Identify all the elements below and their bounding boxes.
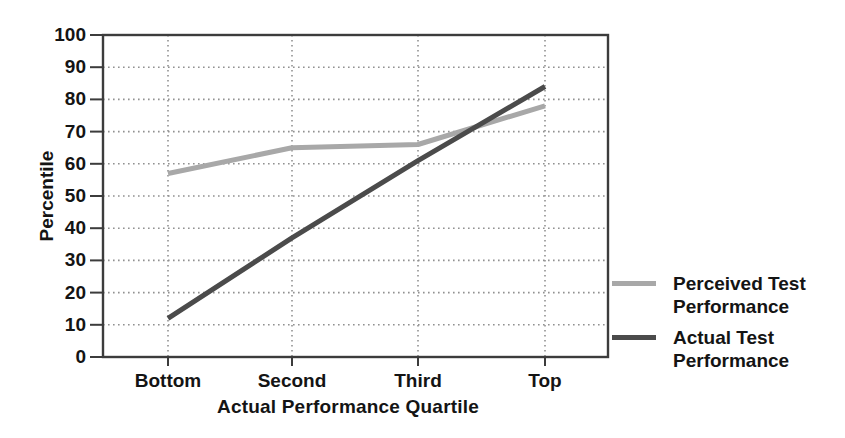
y-tick-label: 50 — [24, 185, 86, 207]
y-tick-label: 60 — [24, 153, 86, 175]
y-tick-label: 100 — [24, 24, 86, 46]
legend-entry-actual: Actual Test Performance — [612, 326, 842, 372]
y-tick-label: 40 — [24, 217, 86, 239]
x-category-label: Top — [480, 370, 610, 392]
legend-label-actual: Actual Test Performance — [673, 326, 828, 372]
dunning-kruger-chart: Percentile Actual Performance Quartile 0… — [0, 0, 845, 438]
legend: Perceived Test Performance Actual Test P… — [612, 272, 842, 372]
y-tick-label: 90 — [24, 56, 86, 78]
x-category-label: Second — [227, 370, 357, 392]
y-tick-label: 0 — [24, 346, 86, 368]
actual-line-swatch — [612, 335, 656, 340]
y-tick-label: 10 — [24, 314, 86, 336]
legend-entry-perceived: Perceived Test Performance — [612, 272, 842, 318]
y-tick-label: 20 — [24, 282, 86, 304]
series-line-1 — [168, 87, 545, 319]
x-category-label: Bottom — [103, 370, 233, 392]
legend-label-perceived: Perceived Test Performance — [673, 272, 828, 318]
perceived-line-swatch — [612, 281, 656, 286]
x-category-label: Third — [353, 370, 483, 392]
x-axis-title: Actual Performance Quartile — [148, 396, 548, 418]
y-tick-label: 30 — [24, 249, 86, 271]
y-tick-label: 80 — [24, 88, 86, 110]
y-tick-label: 70 — [24, 121, 86, 143]
